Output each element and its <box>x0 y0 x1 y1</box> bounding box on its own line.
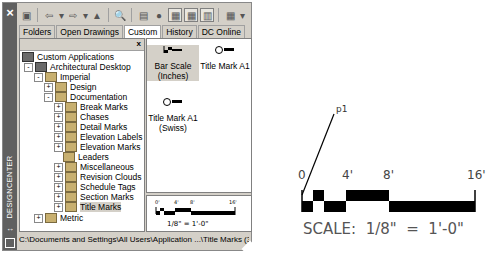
expand-icon[interactable]: + <box>34 214 43 223</box>
tab-history[interactable]: History <box>162 25 196 38</box>
up-icon[interactable]: ▲ <box>90 8 104 22</box>
folder-icon <box>45 213 57 223</box>
folder-icon <box>55 82 67 92</box>
folder-icon <box>55 92 67 102</box>
preview-pane: 0' 4' 8' 16' 1/8" = 1'-0" <box>146 195 252 232</box>
expand-icon[interactable]: + <box>54 133 63 142</box>
content-item-title-mark-a1-swiss[interactable]: Title Mark A1 (Swiss) <box>147 97 199 133</box>
search-icon[interactable]: 🔍 <box>113 8 127 22</box>
tab-folders[interactable]: Folders <box>19 25 55 38</box>
tree-close-icon[interactable]: x <box>137 39 141 48</box>
tab-custom[interactable]: Custom <box>124 25 161 38</box>
toolbar-separator <box>108 8 109 22</box>
preview-toggle-icon[interactable]: ▦ <box>184 8 198 22</box>
tree-node[interactable]: +Revision Clouds <box>54 172 141 182</box>
back-icon[interactable]: ⇦ <box>42 8 56 22</box>
folder-icon <box>65 102 77 112</box>
bar-scale-thumbnail-icon <box>147 45 199 55</box>
tree-node[interactable]: -Imperial <box>34 72 90 82</box>
expand-icon[interactable]: + <box>54 183 63 192</box>
tree-node-selected[interactable]: +Title Marks <box>54 202 121 212</box>
collapse-icon[interactable]: - <box>44 93 53 102</box>
expand-icon[interactable]: + <box>54 203 63 212</box>
title-mark-thumbnail-icon <box>199 45 251 55</box>
views-icon[interactable]: ▦ <box>223 8 237 22</box>
collapse-icon[interactable]: - <box>34 73 43 82</box>
tick-16: 16' <box>467 168 486 182</box>
expand-icon[interactable]: + <box>54 193 63 202</box>
tree-node[interactable]: +Break Marks <box>54 102 128 112</box>
folder-icon <box>65 202 77 212</box>
expand-icon[interactable]: + <box>44 83 53 92</box>
tree-node[interactable]: Custom Applications <box>22 52 114 62</box>
tree-node[interactable]: +Design <box>44 82 96 92</box>
point-label: p1 <box>336 104 347 114</box>
expand-icon[interactable]: + <box>54 173 63 182</box>
folder-icon <box>65 132 77 142</box>
tree-line <box>54 154 61 161</box>
bar-scale-drawing: p1 0 4' 8' 16' SCALE: 1/8" = 1'-0" <box>290 100 490 261</box>
tick-8: 8' <box>383 168 394 182</box>
title-mark-swiss-thumbnail-icon <box>147 97 199 107</box>
status-bar: C:\Documents and Settings\All Users\Appl… <box>19 233 249 246</box>
tree-node[interactable]: Leaders <box>54 152 109 162</box>
tree-view[interactable]: x Custom Applications -Architectural Des… <box>19 38 145 232</box>
tree-node[interactable]: +Elevation Marks <box>54 142 140 152</box>
designcenter-palette: × DESIGNCENTER ↔ ▣ ⇦ ▾ ⇨ ▾ ▲ 🔍 ▤ ● ▦ ▦ ▥… <box>2 2 252 251</box>
svg-text:16': 16' <box>229 199 237 205</box>
svg-text:8': 8' <box>190 199 195 205</box>
expand-icon[interactable]: + <box>54 143 63 152</box>
svg-text:1/8" = 1'-0": 1/8" = 1'-0" <box>167 220 208 228</box>
collapse-icon[interactable]: - <box>24 63 33 72</box>
expand-icon[interactable]: + <box>54 163 63 172</box>
tree-node[interactable]: +Detail Marks <box>54 122 127 132</box>
load-icon[interactable]: ▣ <box>19 8 33 22</box>
description-toggle-icon[interactable]: ▥ <box>200 8 214 22</box>
toolbar-separator <box>131 8 132 22</box>
drawing-area[interactable]: p1 0 4' 8' 16' SCALE: 1/8" = 1'-0" <box>290 100 490 261</box>
folder-icon <box>65 192 77 202</box>
expand-icon[interactable]: + <box>54 103 63 112</box>
tab-bar: Folders Open Drawings Custom History DC … <box>19 25 246 38</box>
folder-icon <box>65 162 77 172</box>
tick-0: 0 <box>298 168 306 182</box>
content-item-bar-scale[interactable]: Bar Scale (Inches) <box>147 45 199 81</box>
tree-view-toggle-icon[interactable]: ▦ <box>168 8 182 22</box>
palette-title-bar[interactable]: × DESIGNCENTER ↔ <box>3 3 17 250</box>
tree-node[interactable]: +Schedule Tags <box>54 182 136 192</box>
leader-line <box>302 114 334 195</box>
application-icon <box>35 62 47 72</box>
expand-icon[interactable]: + <box>54 123 63 132</box>
toolbar-separator <box>218 8 219 22</box>
views-dropdown-icon[interactable]: ▾ <box>239 8 245 22</box>
svg-text:4': 4' <box>174 199 179 205</box>
forward-dropdown-icon[interactable]: ▾ <box>82 8 88 22</box>
tree-node[interactable]: +Elevation Labels <box>54 132 142 142</box>
folder-icon <box>45 72 57 82</box>
palette-title: DESIGNCENTER <box>5 147 17 227</box>
tree-node[interactable]: -Documentation <box>44 92 127 102</box>
favorites-icon[interactable]: ▤ <box>136 8 150 22</box>
auto-hide-icon[interactable]: ↔ <box>5 224 15 234</box>
tree-header: x <box>20 39 144 51</box>
tree-node[interactable]: +Section Marks <box>54 192 134 202</box>
folder-icon <box>65 142 77 152</box>
back-dropdown-icon[interactable]: ▾ <box>58 8 64 22</box>
tree-node[interactable]: +Chases <box>54 112 109 122</box>
home-icon[interactable]: ● <box>152 8 166 22</box>
scale-text: SCALE: 1/8" = 1'-0" <box>303 220 464 238</box>
toolbar-separator <box>37 8 38 22</box>
folder-icon <box>65 182 77 192</box>
tab-open-drawings[interactable]: Open Drawings <box>56 25 123 38</box>
content-item-title-mark-a1[interactable]: Title Mark A1 <box>199 45 251 71</box>
forward-icon[interactable]: ⇨ <box>66 8 80 22</box>
tree-node[interactable]: +Miscellaneous <box>54 162 134 172</box>
expand-icon[interactable]: + <box>54 113 63 122</box>
tab-dc-online[interactable]: DC Online <box>198 25 245 38</box>
properties-icon[interactable] <box>5 238 15 248</box>
bar-scale-preview: 0' 4' 8' 16' 1/8" = 1'-0" <box>147 196 251 231</box>
content-area[interactable]: Bar Scale (Inches) Title Mark A1 Title M… <box>146 38 252 193</box>
tree-node[interactable]: -Architectural Desktop <box>24 62 131 72</box>
close-icon[interactable]: × <box>5 7 15 19</box>
tree-node[interactable]: +Metric <box>34 213 83 223</box>
